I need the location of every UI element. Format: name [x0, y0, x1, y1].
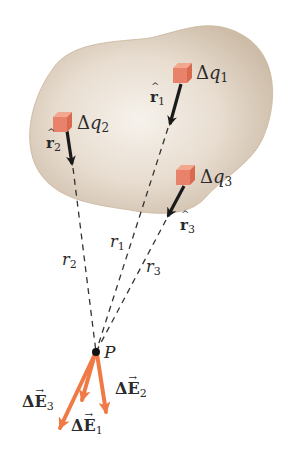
- charge-distribution-diagram: Δq1 Δq2 Δq3 ^r1 ^r2 ^r3 r1 r2 r3 P Δ→E3 …: [0, 0, 282, 452]
- q-symbol: q: [213, 166, 225, 187]
- subscript: 1: [118, 240, 125, 253]
- label-delta-E1: Δ→E1: [71, 418, 103, 436]
- r-symbol: r: [110, 232, 118, 251]
- subscript: 3: [225, 175, 233, 189]
- E2-vector: [97, 354, 106, 412]
- delta-symbol: Δ: [115, 379, 127, 398]
- subscript: 1: [96, 424, 103, 437]
- vector-arrow-symbol: →: [35, 386, 43, 396]
- delta-symbol: Δ: [77, 112, 90, 133]
- r3-line: [96, 220, 166, 352]
- subscript: 3: [154, 265, 161, 278]
- label-r3-hat: ^r3: [180, 218, 195, 235]
- subscript: 1: [158, 95, 165, 108]
- hat-symbol: ^: [151, 81, 159, 91]
- label-r2-hat: ^r2: [46, 136, 61, 153]
- vector-arrow-symbol: →: [84, 410, 92, 420]
- label-r1: r1: [110, 234, 125, 252]
- cube-q1: [173, 63, 192, 83]
- cube-q2: [53, 112, 72, 132]
- subscript: 1: [221, 71, 229, 85]
- delta-symbol: Δ: [196, 62, 209, 83]
- subscript: 3: [47, 400, 54, 413]
- label-delta-E3: Δ→E3: [22, 394, 54, 412]
- point-p: [92, 348, 100, 356]
- vector-arrow-symbol: →: [128, 373, 136, 383]
- subscript: 3: [188, 223, 195, 236]
- label-r1-hat: ^r1: [150, 90, 165, 107]
- cube-q3: [176, 165, 195, 185]
- label-delta-q2: Δq2: [77, 114, 109, 134]
- hat-symbol: ^: [181, 209, 189, 219]
- hat-symbol: ^: [47, 127, 55, 137]
- label-point-p: P: [104, 344, 115, 361]
- label-delta-q1: Δq1: [196, 64, 228, 84]
- q-symbol: q: [209, 62, 221, 83]
- label-delta-q3: Δq3: [200, 168, 232, 188]
- subscript: 2: [70, 258, 77, 271]
- q-symbol: q: [90, 112, 102, 133]
- label-delta-E2: Δ→E2: [115, 381, 147, 399]
- delta-symbol: Δ: [22, 392, 34, 411]
- subscript: 2: [140, 387, 147, 400]
- label-r2: r2: [62, 252, 77, 270]
- label-r3: r3: [146, 259, 161, 277]
- subscript: 2: [54, 141, 61, 154]
- r-symbol: r: [146, 257, 154, 276]
- r-symbol: r: [62, 250, 70, 269]
- delta-symbol: Δ: [200, 166, 213, 187]
- subscript: 2: [102, 121, 110, 135]
- delta-symbol: Δ: [71, 416, 83, 435]
